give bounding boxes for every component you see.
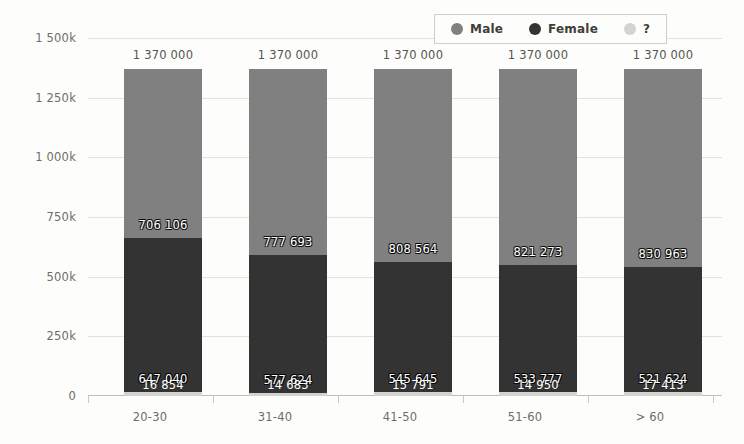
bar-segment-female[interactable]: 577 624: [249, 255, 327, 393]
x-axis-label-31-40: 31-40: [225, 410, 325, 424]
y-axis-tick-750k: 750k: [47, 210, 76, 224]
y-axis-tick-250k: 250k: [47, 329, 76, 343]
x-axis-tick-mark: [463, 396, 464, 403]
bar-total-label: 1 370 000: [112, 48, 214, 62]
y-axis-labels: 1 500k 1 250k 1 000k 750k 500k 250k 0: [0, 38, 80, 396]
x-axis: 20-30 31-40 41-50 51-60 > 60: [88, 396, 722, 444]
x-axis-tick-mark: [213, 396, 214, 403]
y-axis-tick-500k: 500k: [47, 270, 76, 284]
bar-stack[interactable]: 706 106 647 040: [124, 69, 202, 396]
bar-total-label: 1 370 000: [612, 48, 714, 62]
bar-segment-female-label: 533 777: [499, 372, 577, 386]
x-axis-tick-mark: [338, 396, 339, 403]
bar-total-label: 1 370 000: [362, 48, 464, 62]
legend-label-unknown: ?: [643, 22, 650, 36]
plot-area: 1 370 000 706 106 647 040 16 854 1 370 0…: [88, 38, 722, 396]
bar-segment-male[interactable]: 706 106: [124, 69, 202, 238]
x-axis-label-41-50: 41-50: [350, 410, 450, 424]
legend-item-female[interactable]: Female: [529, 22, 598, 36]
bar-segment-female[interactable]: 545 645: [374, 262, 452, 392]
y-axis-tick-1500k: 1 500k: [35, 31, 76, 45]
x-axis-label-over-60: > 60: [600, 410, 700, 424]
bar-total-label: 1 370 000: [237, 48, 339, 62]
bar-segment-female[interactable]: 521 624: [624, 267, 702, 392]
legend: Male Female ?: [434, 14, 667, 44]
legend-label-female: Female: [548, 22, 598, 36]
x-axis-tick-mark: [88, 396, 89, 403]
bar-segment-female-label: 521 624: [624, 372, 702, 386]
bar-segment-male-label: 821 273: [499, 245, 577, 259]
bar-stack[interactable]: 808 564 545 645: [374, 69, 452, 396]
bar-segment-female[interactable]: 647 040: [124, 238, 202, 392]
legend-swatch-male-icon: [451, 23, 463, 35]
x-axis-label-20-30: 20-30: [100, 410, 200, 424]
bar-segment-male[interactable]: 830 963: [624, 69, 702, 267]
legend-item-male[interactable]: Male: [451, 22, 503, 36]
legend-swatch-unknown-icon: [624, 23, 636, 35]
y-axis-tick-1000k: 1 000k: [35, 150, 76, 164]
legend-label-male: Male: [470, 22, 503, 36]
bar-segment-male-label: 777 693: [249, 235, 327, 249]
bar-total-label: 1 370 000: [487, 48, 589, 62]
x-axis-tick-mark: [713, 396, 714, 403]
x-axis-label-51-60: 51-60: [475, 410, 575, 424]
y-axis-tick-1250k: 1 250k: [35, 91, 76, 105]
bar-stack[interactable]: 830 963 521 624: [624, 69, 702, 396]
x-axis-tick-mark: [588, 396, 589, 403]
legend-swatch-female-icon: [529, 23, 541, 35]
bar-segment-male[interactable]: 821 273: [499, 69, 577, 265]
bar-segment-male-label: 706 106: [124, 218, 202, 232]
bar-segment-male[interactable]: 777 693: [249, 69, 327, 255]
bar-stack[interactable]: 821 273 533 777: [499, 69, 577, 396]
chart-screenshot: 1 500k 1 250k 1 000k 750k 500k 250k 0 1 …: [0, 0, 744, 444]
bar-segment-female[interactable]: 533 777: [499, 265, 577, 392]
bar-segment-male[interactable]: 808 564: [374, 69, 452, 262]
bar-segment-male-label: 808 564: [374, 242, 452, 256]
y-axis-tick-0: 0: [68, 389, 76, 403]
bar-segment-female-label: 577 624: [249, 373, 327, 387]
bar-segment-female-label: 545 645: [374, 372, 452, 386]
bar-segment-female-label: 647 040: [124, 372, 202, 386]
bar-segment-male-label: 830 963: [624, 247, 702, 261]
legend-item-unknown[interactable]: ?: [624, 22, 650, 36]
bar-stack[interactable]: 777 693 577 624: [249, 69, 327, 396]
